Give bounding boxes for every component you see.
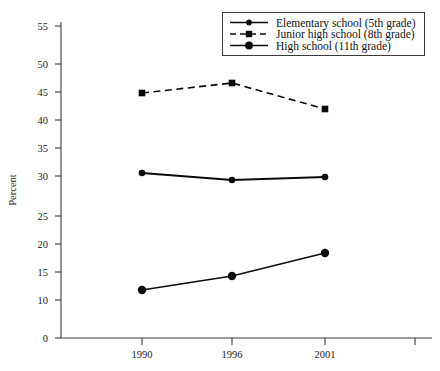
- legend-label: High school (11th grade): [276, 40, 391, 53]
- data-point-marker: [139, 90, 146, 97]
- x-tick-label: 2001: [315, 349, 336, 360]
- line-chart: Percent 55 50 45 40 35 30 25 20: [0, 0, 440, 371]
- y-axis-ticks: [55, 26, 61, 338]
- data-point-marker: [229, 177, 236, 184]
- y-tick-label: 55: [38, 21, 49, 32]
- series-high-school: [138, 249, 329, 294]
- y-tick-label: 50: [38, 59, 49, 70]
- data-point-marker: [139, 170, 146, 177]
- series-line-junior-high-school: [142, 83, 325, 109]
- y-axis-title: Percent: [7, 174, 18, 206]
- data-point-marker: [229, 80, 236, 87]
- data-point-marker: [138, 286, 146, 294]
- legend: Elementary school (5th grade) Junior hig…: [223, 13, 425, 56]
- y-tick-label: 10: [38, 295, 49, 306]
- x-tick-label: 1990: [132, 349, 153, 360]
- legend-marker-icon: [245, 42, 253, 50]
- y-tick-label: 20: [38, 239, 49, 250]
- series-line-high-school: [142, 253, 325, 290]
- data-point-marker: [228, 272, 236, 280]
- data-point-marker: [321, 249, 329, 257]
- y-tick-label: 40: [38, 115, 49, 126]
- data-point-marker: [322, 106, 329, 113]
- y-tick-label: 30: [38, 171, 49, 182]
- y-tick-label: 0: [43, 333, 48, 344]
- x-axis-tick-labels: 1990 1996 2001: [132, 349, 336, 360]
- chart-container: Percent 55 50 45 40 35 30 25 20: [0, 0, 440, 371]
- series-junior-high-school: [139, 80, 329, 113]
- legend-marker-icon: [246, 31, 252, 37]
- x-tick-label: 1996: [222, 349, 243, 360]
- y-axis-tick-labels: 55 50 45 40 35 30 25 20 15 10 0: [38, 21, 49, 344]
- series-elementary-school: [139, 170, 329, 184]
- x-axis-ticks: [142, 338, 415, 345]
- y-tick-label: 15: [38, 267, 49, 278]
- y-tick-label: 45: [38, 87, 49, 98]
- data-point-marker: [322, 174, 329, 181]
- legend-marker-icon: [246, 20, 252, 26]
- y-tick-label: 25: [38, 211, 49, 222]
- y-tick-label: 35: [38, 143, 49, 154]
